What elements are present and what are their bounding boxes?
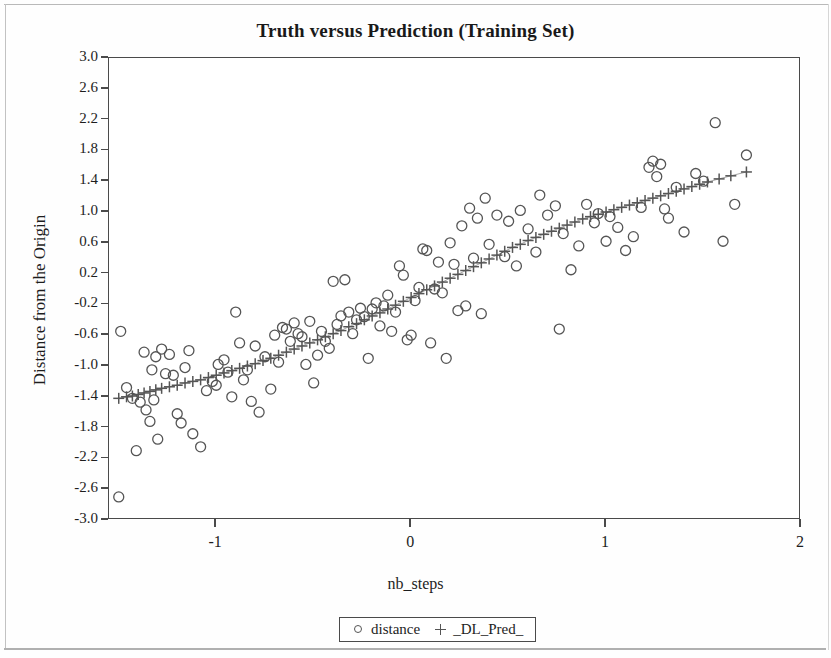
data-point-plus xyxy=(530,232,541,243)
data-point-circle xyxy=(254,407,264,417)
data-point-circle xyxy=(172,409,182,419)
data-point-circle xyxy=(441,353,451,363)
data-point-circle xyxy=(363,353,373,363)
y-axis-tick xyxy=(101,118,108,120)
data-point-circle xyxy=(582,199,592,209)
series-dl-pred xyxy=(113,166,752,403)
chart-title: Truth versus Prediction (Training Set) xyxy=(0,20,831,42)
data-point-plus xyxy=(211,370,222,381)
data-point-circle xyxy=(313,350,323,360)
data-point-circle xyxy=(250,341,260,351)
data-point-circle xyxy=(523,224,533,234)
data-point-circle xyxy=(511,261,521,271)
data-point-circle xyxy=(663,213,673,223)
y-axis-tick-label: 0.6 xyxy=(54,233,98,250)
data-point-circle xyxy=(305,316,315,326)
data-point-circle xyxy=(147,365,157,375)
y-axis-tick-label-wrap: 2.6 xyxy=(50,88,98,89)
data-point-circle xyxy=(445,238,455,248)
x-axis-tick-label-wrap: 2 xyxy=(780,533,820,553)
y-axis-tick-label-wrap: -3.0 xyxy=(50,519,98,520)
data-point-circle xyxy=(574,241,584,251)
data-point-plus xyxy=(164,381,175,392)
data-point-circle xyxy=(188,429,198,439)
y-axis-tick xyxy=(101,87,108,89)
data-point-circle xyxy=(301,359,311,369)
data-point-plus xyxy=(156,383,167,394)
data-point-circle xyxy=(484,239,494,249)
data-point-plus xyxy=(195,374,206,385)
y-axis-tick-label-wrap: 2.2 xyxy=(50,119,98,120)
data-point-circle xyxy=(543,210,553,220)
y-axis-tick-label: 1.4 xyxy=(54,171,98,188)
data-point-circle xyxy=(289,318,299,328)
data-point-plus xyxy=(624,200,635,211)
x-axis-tick-label-wrap: 1 xyxy=(585,533,625,553)
data-point-circle xyxy=(328,276,338,286)
data-point-circle xyxy=(718,236,728,246)
data-point-circle xyxy=(531,247,541,257)
data-point-circle xyxy=(196,442,206,452)
data-point-circle xyxy=(344,307,354,317)
data-point-plus xyxy=(577,213,588,224)
data-point-circle xyxy=(457,221,467,231)
data-point-circle xyxy=(550,201,560,211)
y-axis-tick-label-wrap: 3.0 xyxy=(50,57,98,58)
y-axis-tick xyxy=(101,149,108,151)
data-point-circle xyxy=(375,321,385,331)
y-axis-tick-label: -1.8 xyxy=(54,418,98,435)
data-point-plus xyxy=(632,197,643,208)
data-point-circle xyxy=(515,205,525,215)
data-point-circle xyxy=(235,338,245,348)
y-axis-tick xyxy=(101,56,108,58)
data-point-plus xyxy=(121,391,132,402)
y-axis-tick-label-wrap: -2.6 xyxy=(50,488,98,489)
y-axis-tick xyxy=(101,395,108,397)
data-point-circle xyxy=(426,338,436,348)
data-point-circle xyxy=(535,190,545,200)
legend-label: distance xyxy=(371,621,420,638)
page-border-top xyxy=(4,4,828,5)
y-axis-tick xyxy=(101,333,108,335)
data-point-plus xyxy=(289,344,300,355)
data-point-plus xyxy=(655,190,666,201)
y-axis-tick-label-wrap: -0.6 xyxy=(50,334,98,335)
data-point-plus xyxy=(257,355,268,366)
y-axis-tick-label: -1.0 xyxy=(54,356,98,373)
chart-page: Truth versus Prediction (Training Set) D… xyxy=(0,0,831,658)
circle-marker-icon xyxy=(352,623,365,636)
data-point-circle xyxy=(504,216,514,226)
y-axis-tick-label-wrap: 1.8 xyxy=(50,149,98,150)
page-border-bottom xyxy=(4,648,826,650)
data-point-circle xyxy=(613,222,623,232)
data-point-circle xyxy=(114,492,124,502)
data-point-circle xyxy=(480,193,490,203)
x-axis-tick-label-wrap: 0 xyxy=(390,533,430,553)
data-point-circle xyxy=(437,288,447,298)
data-point-plus xyxy=(296,340,307,351)
y-axis-tick-label: 1.8 xyxy=(54,140,98,157)
data-point-plus xyxy=(150,384,161,395)
data-point-plus xyxy=(741,166,752,177)
plot-area xyxy=(108,57,800,519)
data-point-circle xyxy=(449,259,459,269)
legend-entry[interactable]: distance xyxy=(352,621,420,638)
data-point-circle xyxy=(246,396,256,406)
data-point-plus xyxy=(569,217,580,228)
data-point-plus xyxy=(616,202,627,213)
data-point-circle xyxy=(383,290,393,300)
data-point-circle xyxy=(227,392,237,402)
data-point-plus xyxy=(686,181,697,192)
x-axis-tick-label: -1 xyxy=(195,533,235,551)
data-point-circle xyxy=(176,418,186,428)
y-axis-tick-label-wrap: 1.0 xyxy=(50,211,98,212)
y-axis-tick-label-wrap: 1.4 xyxy=(50,180,98,181)
x-axis-tick-label-wrap: -1 xyxy=(195,533,235,553)
legend-entry[interactable]: _DL_Pred_ xyxy=(434,621,523,638)
y-axis-tick-label: -2.2 xyxy=(54,448,98,465)
data-point-circle xyxy=(131,446,141,456)
data-point-circle xyxy=(554,324,564,334)
data-point-circle xyxy=(476,309,486,319)
data-point-plus xyxy=(242,361,253,372)
y-axis-tick-label-wrap: -1.0 xyxy=(50,365,98,366)
